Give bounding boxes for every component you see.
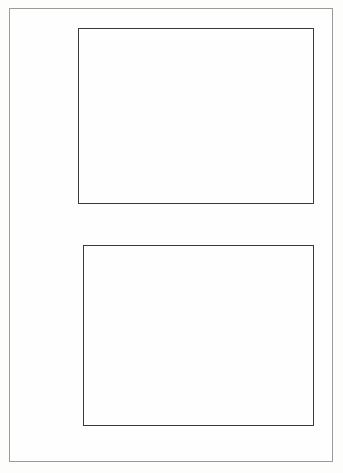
panel-bottom (0, 232, 343, 473)
panel-top (0, 0, 343, 232)
top-regression-line (79, 29, 313, 203)
bottom-plot-area (83, 245, 314, 426)
bottom-regression-line (84, 246, 313, 425)
top-plot-area (78, 28, 314, 204)
figure-container (0, 0, 343, 473)
